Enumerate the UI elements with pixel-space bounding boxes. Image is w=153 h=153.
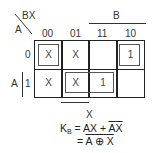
col-header-10: 10 (125, 29, 136, 39)
eq-xor-expr: A ⊕ X (85, 135, 113, 147)
karnaugh-map: X X 1 X X 1 (34, 40, 145, 98)
col-header-01: 01 (70, 29, 81, 39)
group-loop-a0-00 (38, 44, 59, 66)
eq-term-2a: A (109, 122, 116, 134)
x-bracket (61, 102, 89, 103)
b-bracket (89, 23, 146, 24)
a-bracket (22, 72, 23, 97)
row-header-1: 1 (25, 79, 31, 89)
col-header-00: 00 (42, 29, 53, 39)
group-loop-a1-01-11 (65, 72, 114, 93)
equation-line-2: = A ⊕ X (77, 135, 114, 147)
group-label-b: B (113, 11, 120, 21)
eq-lhs-sub: B (67, 128, 72, 135)
eq-equals-1: = (75, 122, 81, 134)
row-header-0: 0 (25, 50, 31, 60)
cell-a1-00: X (35, 77, 62, 89)
equation-line-1: KB = AX + AX (60, 122, 123, 135)
eq-lhs: K (60, 122, 67, 134)
eq-plus: + (100, 122, 106, 134)
eq-equals-2: = (77, 135, 83, 147)
eq-term-1: AX (83, 122, 97, 134)
group-loop-a0-10 (119, 44, 140, 66)
col-header-11: 11 (97, 29, 107, 39)
eq-term-2b: X (116, 122, 123, 134)
group-label-a: A (11, 79, 18, 89)
corner-diagonal (12, 12, 36, 36)
group-label-x: X (86, 110, 93, 120)
cell-a0-01: X (62, 49, 89, 61)
